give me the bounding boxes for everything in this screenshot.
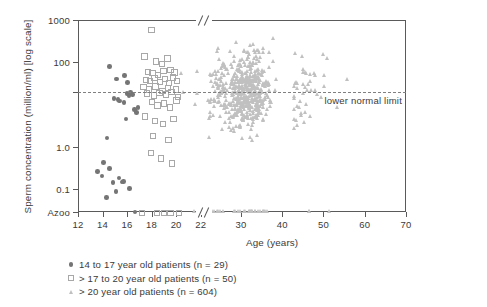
data-point-adult (246, 96, 250, 100)
data-point-adult (322, 84, 326, 88)
data-point-adult (211, 72, 215, 76)
x-tick (103, 212, 104, 217)
data-point-young-adult (141, 53, 147, 59)
x-tick-label: 20 (171, 219, 182, 230)
data-point-adult (241, 77, 245, 81)
data-point-adult (242, 209, 246, 213)
data-point-adult (243, 82, 247, 86)
data-point-young-adult (158, 155, 164, 161)
data-point-adult (208, 100, 212, 104)
data-point-adult (228, 120, 232, 124)
x-tick-label: 50 (318, 219, 329, 230)
data-point-teen (111, 180, 116, 185)
data-point-adult (255, 133, 259, 137)
data-point-adult (248, 108, 252, 112)
data-point-adult (292, 96, 296, 100)
data-point-adult (304, 71, 308, 75)
data-point-adult (236, 209, 240, 213)
data-point-adult (257, 59, 261, 63)
data-point-adult (218, 114, 222, 118)
lower-normal-limit-label: lower normal limit (324, 95, 402, 106)
data-point-adult (207, 135, 211, 139)
data-point-teen (122, 73, 127, 78)
data-point-teen (104, 195, 109, 200)
data-point-young-adult (156, 90, 162, 96)
data-point-adult (212, 104, 216, 108)
data-point-adult (195, 69, 199, 73)
data-point-adult (247, 77, 251, 81)
data-point-adult (327, 209, 331, 213)
data-point-adult (261, 50, 265, 54)
lower-normal-limit-line (78, 92, 406, 93)
data-point-adult (234, 40, 238, 44)
data-point-adult (231, 114, 235, 118)
data-point-adult (252, 84, 256, 88)
data-point-adult (325, 56, 329, 60)
data-point-adult (229, 62, 233, 66)
x-tick (282, 212, 283, 217)
axis-break-mask-top (196, 18, 212, 23)
data-point-adult (256, 48, 260, 52)
legend-item-young-adults: > 17 to 20 year old patients (n = 50) (63, 272, 237, 286)
data-point-teen (121, 179, 126, 184)
data-point-adult (231, 99, 235, 103)
data-point-adult (251, 115, 255, 119)
data-point-adult (218, 209, 222, 213)
x-tick-label: 60 (359, 219, 370, 230)
data-point-adult (299, 113, 303, 117)
data-point-adult (248, 43, 252, 47)
data-point-young-adult (173, 97, 179, 103)
data-point-adult (255, 116, 259, 120)
data-point-teen (134, 110, 139, 115)
data-point-adult (263, 81, 267, 85)
data-point-teen (100, 174, 105, 179)
data-point-adult (248, 103, 252, 107)
data-point-young-adult (150, 133, 156, 139)
data-point-adult (261, 209, 265, 213)
data-point-young-adult (139, 210, 145, 216)
y-tick-label: 1.0 (56, 141, 70, 152)
legend-label-adults: > 20 year old patients (n = 604) (79, 286, 217, 297)
data-point-adult (212, 99, 216, 103)
x-tick-label: 16 (122, 219, 133, 230)
data-point-young-adult (152, 118, 158, 124)
data-point-adult (292, 117, 296, 121)
y-axis-title-label: Sperm concentration (million/ml) [log sc… (23, 19, 34, 213)
data-point-adult (236, 63, 240, 67)
data-point-teen (95, 169, 100, 174)
data-point-teen (124, 117, 129, 122)
data-point-adult (271, 36, 275, 40)
data-point-young-adult (176, 210, 182, 216)
data-point-young-adult (159, 61, 165, 67)
data-point-adult (253, 209, 257, 213)
data-point-young-adult (154, 102, 160, 108)
data-point-young-adult (154, 210, 160, 216)
data-point-adult (268, 104, 272, 108)
data-point-teen (133, 210, 138, 215)
data-point-adult (292, 126, 296, 130)
data-point-adult (242, 60, 246, 64)
data-point-adult (242, 107, 246, 111)
x-tick-label: 12 (73, 219, 84, 230)
axis-break-mask-bottom (196, 209, 212, 215)
y-tick (73, 189, 78, 190)
x-tick (127, 212, 128, 217)
x-tick-label: 22 (195, 219, 206, 230)
data-point-adult (345, 77, 349, 81)
x-tick (152, 212, 153, 217)
data-point-teen (114, 77, 119, 82)
data-point-adult (229, 81, 233, 85)
scatter-plot-figure: Sperm concentration (million/ml) [log sc… (0, 0, 487, 307)
y-axis-line (78, 20, 79, 212)
data-point-adult (251, 42, 255, 46)
y-tick (73, 147, 78, 148)
data-point-adult (232, 209, 236, 213)
data-point-adult (214, 76, 218, 80)
data-point-adult (248, 82, 252, 86)
data-point-adult (249, 127, 253, 131)
plot-frame-top (78, 20, 406, 21)
data-point-adult (215, 49, 219, 53)
legend-label-teens: 14 to 17 year old patients (n = 29) (79, 259, 228, 270)
data-point-adult (227, 125, 231, 129)
data-point-adult (267, 50, 271, 54)
